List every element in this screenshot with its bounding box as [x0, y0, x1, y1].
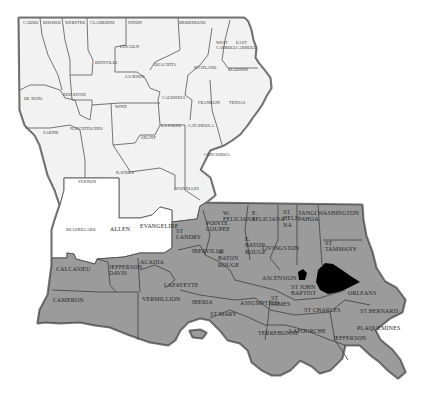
parish-label-sabine[interactable]: SABINE: [43, 131, 59, 136]
parish-label-east-carroll[interactable]: EAST CARROLL: [236, 41, 256, 50]
parish-label-ascension[interactable]: ASCENSION: [262, 275, 297, 281]
parish-label-st-james[interactable]: ST JAMES: [271, 295, 291, 308]
parish-label-concordia[interactable]: CONCORDIA: [204, 153, 230, 158]
parish-label-acadia[interactable]: ACADIA: [140, 259, 164, 265]
parish-label-natchitoches[interactable]: NATCHITOCHES: [70, 127, 103, 132]
parish-label-iberia[interactable]: IBERIA: [192, 299, 213, 305]
parish-label-west-baton-rouge[interactable]: W. BATON ROUGE: [218, 249, 239, 268]
parish-label-jefferson-davis[interactable]: JEFFERSON DAVIS: [109, 264, 142, 277]
parish-label-cameron[interactable]: CAMERON: [53, 297, 84, 303]
parish-label-lafayette[interactable]: LAFAYETTE: [164, 282, 199, 288]
parish-label-lincoln[interactable]: LINCOLN: [120, 45, 139, 50]
parish-label-morehouse[interactable]: MOREHOUSE: [179, 21, 206, 26]
parish-label-tangipahoa[interactable]: TANGI PAHOA: [298, 210, 319, 223]
parish-label-bienville[interactable]: BIENVILLE: [95, 61, 118, 66]
parish-label-caldwell[interactable]: CALDWELL: [162, 96, 186, 101]
parish-label-livingston[interactable]: LIVINGSTON: [262, 245, 299, 251]
parish-label-la-salle[interactable]: LA SALLE: [161, 124, 181, 129]
parish-label-west-carroll[interactable]: WEST CARROLL: [216, 41, 236, 50]
parish-label-st-charles[interactable]: ST CHARLES: [304, 307, 341, 313]
parish-label-washington[interactable]: WASHINGTON: [318, 210, 359, 216]
parish-label-grant[interactable]: GRANT: [141, 136, 156, 141]
parish-label-west-feliciana[interactable]: W. FELICIANA: [223, 210, 256, 223]
parish-label-plaquemines[interactable]: PLAQUEMINES: [357, 325, 400, 331]
parish-label-calcasieu[interactable]: CALCASIEU: [56, 266, 91, 272]
parish-label-east-feliciana[interactable]: E. FELICIANA: [252, 210, 285, 223]
parish-label-webster[interactable]: WEBSTER: [65, 21, 85, 26]
louisiana-parish-map: [0, 0, 442, 404]
parish-label-rapides[interactable]: RAPIDES: [116, 171, 134, 176]
parish-label-vermillion[interactable]: VERMILLION: [142, 296, 180, 302]
parish-label-vernon[interactable]: VERNON: [78, 180, 96, 185]
parish-label-st-bernard[interactable]: ST BERNARD: [360, 308, 398, 314]
parish-label-red-river[interactable]: RED RIVER: [63, 93, 86, 98]
parish-label-st-john-baptist[interactable]: ST JOHN BAPTIST: [291, 284, 316, 297]
parish-label-evangeline[interactable]: EVANGELINE: [140, 223, 179, 229]
parish-label-jefferson[interactable]: JEFFERSON: [333, 335, 366, 341]
parish-label-bossier[interactable]: BOSSIER: [43, 21, 61, 26]
parish-label-madison[interactable]: MADISON: [228, 68, 248, 73]
parish-label-orleans[interactable]: ORLEANS: [348, 290, 376, 296]
parish-label-beauregard[interactable]: BEAUREGARD: [66, 228, 96, 233]
parish-label-st-helena[interactable]: ST HELE NA: [283, 209, 299, 228]
parish-label-st-tammany[interactable]: ST TAMMANY: [325, 240, 357, 253]
parish-label-allen[interactable]: ALLEN: [110, 226, 130, 232]
parish-label-st-landry[interactable]: ST LANDRY: [176, 228, 201, 241]
parish-label-lafourche[interactable]: LAFOURCHE: [289, 328, 326, 334]
parish-label-winn[interactable]: WINN: [115, 105, 127, 110]
parish-label-franklin[interactable]: FRANKLIN: [198, 101, 220, 106]
parish-label-st-mary[interactable]: ST MARY: [210, 311, 237, 317]
parish-label-richland[interactable]: RICHLAND: [194, 66, 216, 71]
parish-label-union[interactable]: UNION: [128, 21, 142, 26]
parish-label-catahoula[interactable]: CATAHOULA: [188, 124, 214, 129]
parish-label-claiborne[interactable]: CLAIBORNE: [90, 21, 115, 26]
parish-label-caddo[interactable]: CADDO: [23, 21, 38, 26]
parish-label-jackson[interactable]: JACKSON: [125, 75, 145, 80]
parish-label-de-soto[interactable]: DE SOTO: [24, 97, 42, 102]
parish-label-avoyelles[interactable]: AVOYELLES: [174, 187, 199, 192]
parish-label-tensas[interactable]: TENSAS: [229, 101, 245, 106]
parish-label-ouachita[interactable]: OUACHITA: [154, 63, 176, 68]
